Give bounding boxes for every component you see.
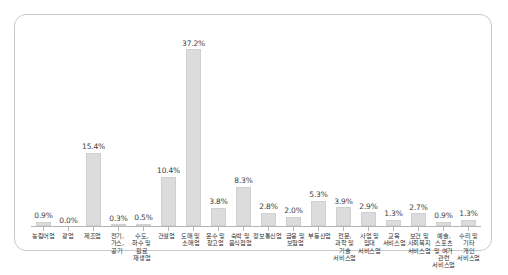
axis-tick [231, 227, 256, 231]
bar[interactable] [36, 222, 51, 226]
category-label: 사업 및 임대 서비스업 [357, 232, 382, 254]
category-label: 농림어업 [31, 232, 56, 239]
tick-mark [193, 227, 194, 231]
tick-mark [93, 227, 94, 231]
bar[interactable] [86, 153, 101, 226]
axis-tick [381, 227, 406, 231]
tick-mark [368, 227, 369, 231]
bar-column[interactable]: 3.8% [206, 23, 231, 226]
axis-tick [31, 227, 56, 231]
bar-column[interactable]: 0.3% [106, 23, 131, 226]
bar-value-label: 2.8% [259, 203, 277, 211]
bar-value-label: 0.5% [134, 214, 152, 222]
bar[interactable] [411, 213, 426, 226]
bar[interactable] [261, 213, 276, 226]
bar-column[interactable]: 8.3% [231, 23, 256, 226]
axis-tick [156, 227, 181, 231]
bar-value-label: 10.4% [157, 167, 180, 175]
tick-mark [168, 227, 169, 231]
tick-mark [218, 227, 219, 231]
bar-column[interactable]: 2.8% [256, 23, 281, 226]
tick-mark [268, 227, 269, 231]
bar-column[interactable]: 15.4% [81, 23, 106, 226]
bar-value-label: 2.9% [359, 203, 377, 211]
bar-value-label: 37.2% [182, 40, 205, 48]
tick-mark [118, 227, 119, 231]
bar[interactable] [461, 220, 476, 226]
bar-column[interactable]: 2.0% [281, 23, 306, 226]
axis-tick [281, 227, 306, 231]
chart-panel: 0.9%0.0%15.4%0.3%0.5%10.4%37.2%3.8%8.3%2… [14, 14, 492, 251]
bar-column[interactable]: 5.3% [306, 23, 331, 226]
tick-mark [468, 227, 469, 231]
axis-tick [406, 227, 431, 231]
bar-column[interactable]: 10.4% [156, 23, 181, 226]
bar-value-label: 5.3% [309, 191, 327, 199]
tick-mark [318, 227, 319, 231]
category-label: 금융 및 보험업 [283, 232, 308, 247]
category-label: 수리 및 기타 개인 서비스업 [456, 232, 481, 261]
bar-column[interactable]: 2.9% [356, 23, 381, 226]
bar[interactable] [336, 207, 351, 226]
bar-column[interactable]: 1.3% [456, 23, 481, 226]
axis-tick [431, 227, 456, 231]
bar-column[interactable]: 0.9% [31, 23, 56, 226]
bar-value-label: 2.0% [284, 207, 302, 215]
category-label: 숙박 및 음식점업 [228, 232, 253, 247]
category-label: 제조업 [80, 232, 105, 239]
bar[interactable] [436, 222, 451, 226]
bar[interactable] [286, 217, 301, 227]
bar[interactable] [236, 187, 251, 226]
category-label: 건설업 [154, 232, 179, 239]
bar[interactable] [186, 49, 201, 226]
category-label: 교육 서비스업 [382, 232, 407, 247]
bar-column[interactable]: 0.5% [131, 23, 156, 226]
bar-series: 0.9%0.0%15.4%0.3%0.5%10.4%37.2%3.8%8.3%2… [31, 23, 481, 227]
axis-tick [356, 227, 381, 231]
axis-tick [131, 227, 156, 231]
axis-tick [256, 227, 281, 231]
category-label: 운수 및 창고업 [203, 232, 228, 247]
axis-tick [331, 227, 356, 231]
bar[interactable] [386, 220, 401, 226]
bar-column[interactable]: 2.7% [406, 23, 431, 226]
category-label-row: 농림어업광업제조업전기,가스, 공기수도,하수 및 원료 재생업건설업도매 및 … [31, 232, 481, 269]
tick-mark [343, 227, 344, 231]
bar-column[interactable]: 3.9% [331, 23, 356, 226]
bar-value-label: 0.0% [59, 217, 77, 225]
bar[interactable] [311, 201, 326, 226]
axis-tick [106, 227, 131, 231]
bar[interactable] [211, 208, 226, 226]
tick-mark [243, 227, 244, 231]
bar[interactable] [161, 177, 176, 226]
axis-tick [81, 227, 106, 231]
bar-value-label: 8.3% [234, 177, 252, 185]
bar-column[interactable]: 0.0% [56, 23, 81, 226]
bar-value-label: 0.9% [34, 212, 52, 220]
bar-value-label: 3.9% [334, 198, 352, 206]
bar[interactable] [136, 224, 151, 226]
bar[interactable] [111, 224, 126, 226]
category-label: 부동산업 [307, 232, 332, 239]
tick-mark [393, 227, 394, 231]
bar-value-label: 0.3% [109, 215, 127, 223]
bar-value-label: 3.8% [209, 198, 227, 206]
tick-mark [43, 227, 44, 231]
tick-mark [443, 227, 444, 231]
tick-mark [143, 227, 144, 231]
axis-tick-row [31, 227, 481, 231]
category-label: 광업 [56, 232, 81, 239]
bar-column[interactable]: 1.3% [381, 23, 406, 226]
tick-mark [418, 227, 419, 231]
bar-column[interactable]: 37.2% [181, 23, 206, 226]
bar[interactable] [361, 212, 376, 226]
bar-value-label: 1.3% [384, 210, 402, 218]
category-label: 예술,스포츠 및 여가 관련 서비스업 [431, 232, 456, 269]
category-label: 전문,과학 및 기술 서비스업 [332, 232, 357, 261]
axis-tick [306, 227, 331, 231]
tick-mark [68, 227, 69, 231]
category-label: 전기,가스, 공기 [105, 232, 130, 254]
axis-tick [206, 227, 231, 231]
bar-column[interactable]: 0.9% [431, 23, 456, 226]
axis-tick [181, 227, 206, 231]
